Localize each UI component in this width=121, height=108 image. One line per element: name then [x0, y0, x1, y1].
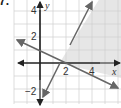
y-axis-label: y [44, 0, 50, 11]
x-tick-4: 4 [89, 66, 95, 77]
y-tick-2: 2 [31, 31, 37, 42]
x-tick-2: 2 [63, 66, 69, 77]
coordinate-graph: 4 2 −2 2 4 x y [0, 0, 121, 108]
y-tick-4: 4 [31, 5, 37, 16]
y-tick-neg2: −2 [25, 86, 37, 97]
x-axis-label: x [111, 66, 117, 77]
